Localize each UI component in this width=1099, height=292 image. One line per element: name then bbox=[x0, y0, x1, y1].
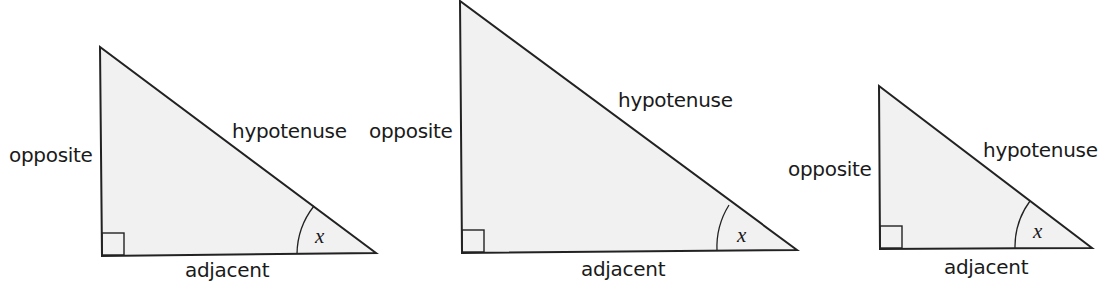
triangle-2: x opposite hypotenuse adjacent bbox=[369, 1, 797, 281]
opposite-label: opposite bbox=[369, 119, 453, 143]
angle-label: x bbox=[736, 223, 747, 247]
triangle-1-shape bbox=[100, 47, 376, 256]
opposite-label: opposite bbox=[788, 157, 872, 181]
hypotenuse-label: hypotenuse bbox=[983, 138, 1098, 162]
trig-triangles-diagram: x opposite hypotenuse adjacent x opposit… bbox=[0, 0, 1099, 292]
hypotenuse-label: hypotenuse bbox=[232, 119, 347, 143]
hypotenuse-label: hypotenuse bbox=[618, 88, 733, 112]
triangle-3-shape bbox=[879, 86, 1092, 249]
adjacent-label: adjacent bbox=[944, 255, 1029, 279]
adjacent-label: adjacent bbox=[185, 258, 270, 282]
triangle-3: x opposite hypotenuse adjacent bbox=[788, 86, 1098, 279]
opposite-label: opposite bbox=[9, 143, 93, 167]
angle-label: x bbox=[1032, 219, 1043, 243]
triangle-2-shape bbox=[460, 1, 797, 253]
adjacent-label: adjacent bbox=[581, 257, 666, 281]
angle-label: x bbox=[314, 224, 325, 248]
triangle-1: x opposite hypotenuse adjacent bbox=[9, 47, 376, 282]
